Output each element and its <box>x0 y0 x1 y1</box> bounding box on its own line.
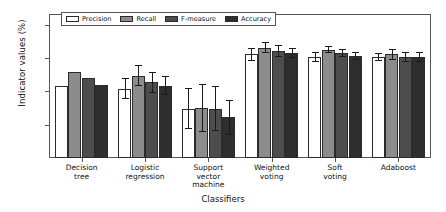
x-category-label: Decisiontree <box>46 164 118 181</box>
bar-f-measure <box>399 57 412 158</box>
x-category-line: regression <box>109 173 181 182</box>
legend-label: Recall <box>136 15 156 23</box>
y-tick-mark <box>45 58 49 59</box>
error-bar <box>202 84 203 132</box>
error-bar <box>342 49 343 57</box>
legend-swatch-icon <box>66 16 79 22</box>
error-bar <box>265 42 266 53</box>
bar-recall <box>322 50 335 158</box>
x-category-label: Softvoting <box>299 164 371 181</box>
legend-swatch-icon <box>225 16 238 22</box>
bar-group <box>118 15 172 158</box>
bar-group <box>55 15 109 158</box>
bar-group <box>182 15 236 158</box>
bar-f-measure <box>335 53 348 158</box>
error-bar <box>251 48 252 61</box>
legend-item-f-measure[interactable]: F-measure <box>165 15 216 23</box>
chart-legend: PrecisionRecallF-measureAccuracy <box>61 12 276 26</box>
legend-item-accuracy[interactable]: Accuracy <box>225 15 271 23</box>
error-bar <box>165 76 166 96</box>
x-tick-mark <box>335 158 336 162</box>
legend-swatch-icon <box>120 16 133 22</box>
legend-label: Accuracy <box>241 15 271 23</box>
bar-group <box>308 15 362 158</box>
y-axis-label: Indicator values (%) <box>17 3 27 123</box>
legend-label: F-measure <box>181 15 216 23</box>
error-bar <box>278 45 279 57</box>
error-bar <box>152 72 153 93</box>
y-tick-mark <box>45 91 49 92</box>
x-category-label: Supportvectormachine <box>172 164 244 190</box>
x-tick-mark <box>82 158 83 162</box>
bar-accuracy <box>285 53 298 158</box>
y-tick-mark <box>45 125 49 126</box>
bar-group <box>245 15 299 158</box>
bar-accuracy <box>412 57 425 158</box>
bar-precision <box>372 57 385 158</box>
bar-recall <box>385 54 398 158</box>
error-bar <box>229 100 230 135</box>
bar-chart: Indicator values (%) Classifiers 8085909… <box>0 0 446 212</box>
bar-recall <box>68 72 81 158</box>
bar-precision <box>55 86 68 158</box>
x-tick-mark <box>398 158 399 162</box>
legend-label: Precision <box>82 15 111 23</box>
x-category-label: Logisticregression <box>109 164 181 181</box>
x-tick-mark <box>208 158 209 162</box>
error-bar <box>378 53 379 61</box>
error-bar <box>125 78 126 99</box>
x-category-line: voting <box>236 173 308 182</box>
bar-f-measure <box>82 78 95 158</box>
legend-swatch-icon <box>165 16 178 22</box>
legend-item-precision[interactable]: Precision <box>66 15 111 23</box>
error-bar <box>355 52 356 60</box>
error-bar <box>188 88 189 129</box>
x-category-line: tree <box>46 173 118 182</box>
error-bar <box>315 52 316 61</box>
error-bar <box>328 46 329 53</box>
x-category-line: voting <box>299 173 371 182</box>
x-category-line: machine <box>172 181 244 190</box>
error-bar <box>292 48 293 59</box>
bar-recall <box>132 76 145 158</box>
bar-f-measure <box>145 82 158 158</box>
error-bar <box>138 65 139 86</box>
x-axis-label: Classifiers <box>0 194 446 204</box>
legend-item-recall[interactable]: Recall <box>120 15 156 23</box>
x-tick-mark <box>272 158 273 162</box>
bar-f-measure <box>272 51 285 158</box>
x-tick-mark <box>145 158 146 162</box>
error-bar <box>405 52 406 61</box>
error-bar <box>419 52 420 63</box>
x-category-label: Weightedvoting <box>236 164 308 181</box>
bar-precision <box>245 54 258 158</box>
bar-group <box>372 15 426 158</box>
bar-accuracy <box>349 56 362 158</box>
error-bar <box>392 49 393 60</box>
error-bar <box>215 86 216 131</box>
y-tick-mark <box>45 25 49 26</box>
x-category-line: Adaboost <box>362 164 434 173</box>
bar-precision <box>308 57 321 158</box>
bar-accuracy <box>95 85 108 158</box>
bar-recall <box>258 48 271 158</box>
bar-groups <box>50 15 430 158</box>
bar-accuracy <box>159 86 172 158</box>
x-category-label: Adaboost <box>362 164 434 173</box>
